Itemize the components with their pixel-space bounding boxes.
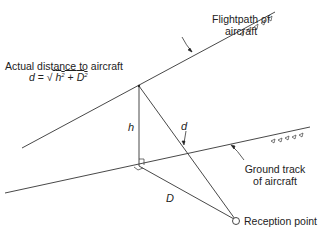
flightpath-label: Flightpath of aircraft [196, 13, 286, 37]
ground-track-label: Ground track of aircraft [235, 163, 315, 187]
slant-distance-line-d [139, 86, 235, 219]
flightpath-label-line1: Flightpath of [196, 13, 286, 25]
reception-point-icon [233, 218, 240, 225]
height-label-h: h [128, 121, 134, 133]
flightpath-label-line2: aircraft [196, 25, 286, 37]
slant-label-d: d [181, 120, 187, 132]
reception-point-label: Reception point [244, 215, 317, 227]
ground-distance-line-D [139, 166, 234, 219]
distance-formula: d = √ h2 + D2 [29, 71, 88, 83]
ground-distance-label-D: D [166, 192, 174, 204]
ground-track-label-line2: of aircraft [235, 175, 315, 187]
ground-track-label-line1: Ground track [235, 163, 315, 175]
